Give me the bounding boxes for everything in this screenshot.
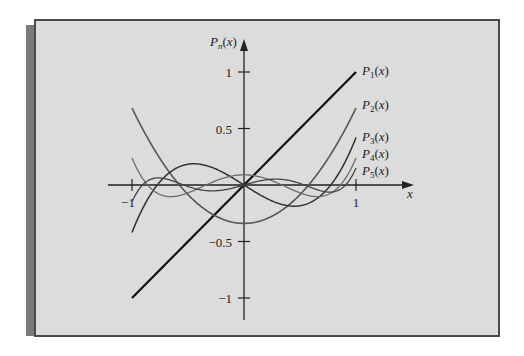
curve-label: P2(x) xyxy=(361,97,389,114)
y-axis-label: Pn(x) xyxy=(209,34,237,51)
y-axis-arrow-icon xyxy=(240,39,248,51)
curve-label: P1(x) xyxy=(361,63,389,80)
curve-label: P5(x) xyxy=(361,163,389,180)
curve-label: P3(x) xyxy=(361,129,389,146)
y-tick-label: 1 xyxy=(226,65,233,80)
y-tick-label: −0.5 xyxy=(208,235,232,250)
y-tick-label: 0.5 xyxy=(216,122,232,137)
curve-label: P4(x) xyxy=(361,146,389,163)
y-tick-label: −1 xyxy=(218,291,232,306)
x-axis-label: x xyxy=(406,186,413,201)
x-tick-label: −1 xyxy=(121,195,135,210)
x-tick-label: 1 xyxy=(353,195,360,210)
curve-labels: P1(x)P2(x)P3(x)P4(x)P5(x) xyxy=(361,63,389,180)
legendre-polynomials-plot: −1110.5−0.5−1Pn(x)x P1(x)P2(x)P3(x)P4(x)… xyxy=(0,0,524,356)
